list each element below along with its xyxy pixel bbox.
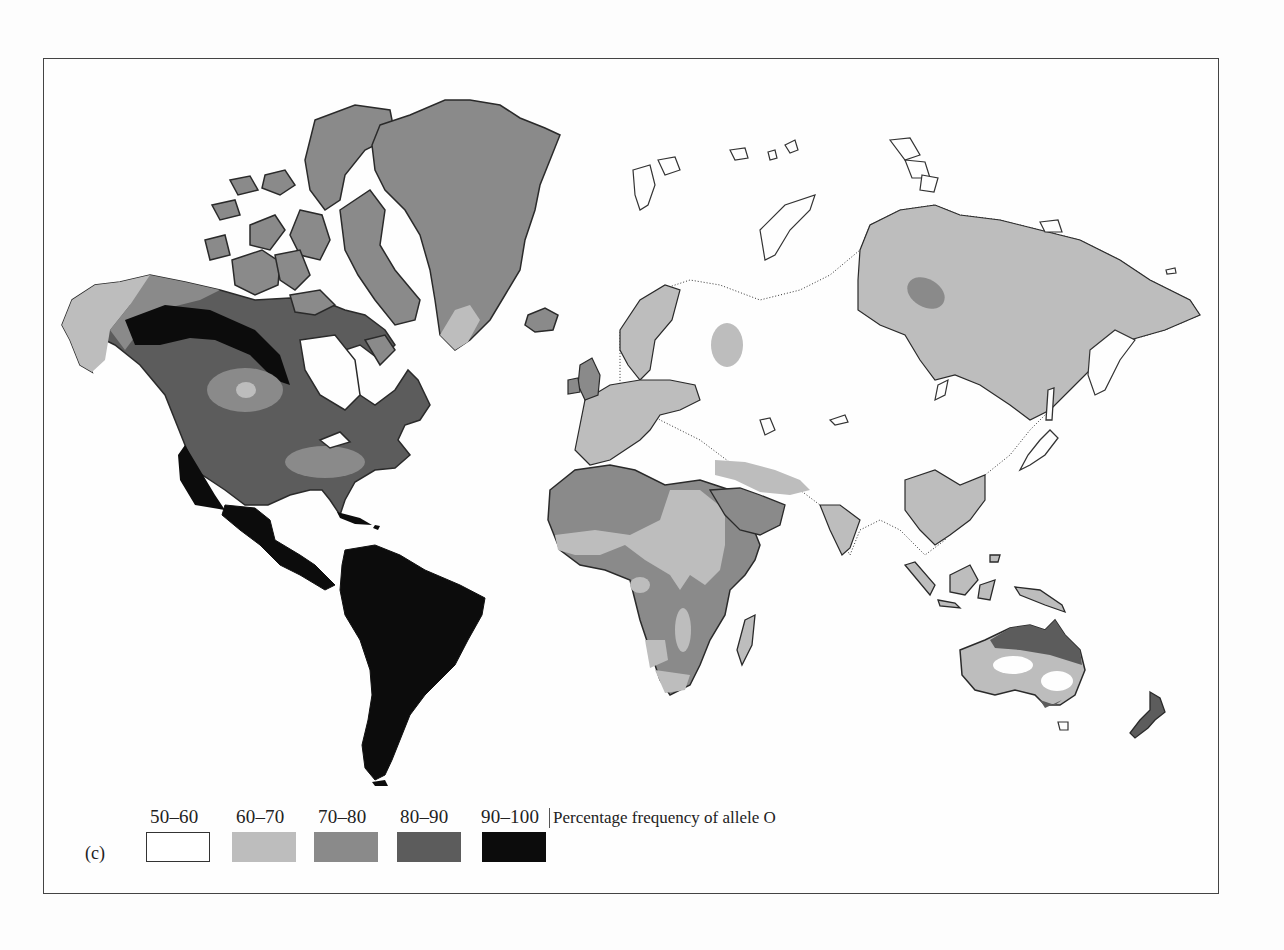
legend-label-70-80: 70–80 (318, 806, 367, 828)
legend-label-50-60: 50–60 (150, 806, 199, 828)
legend-swatch-50-60 (146, 832, 210, 862)
legend-swatch-80-90 (397, 832, 461, 862)
legend-title: Percentage frequency of allele O (549, 808, 776, 828)
panel-label: (c) (85, 843, 105, 864)
legend-swatch-60-70 (232, 832, 296, 862)
africa (548, 465, 785, 695)
region-iceland (525, 308, 558, 332)
legend-label-90-100: 90–100 (481, 806, 539, 828)
region-australia (960, 620, 1085, 730)
region-central-america (222, 505, 335, 590)
region-japan (1020, 430, 1058, 470)
region-madagascar (737, 615, 755, 665)
legend-swatch-90-100 (482, 832, 546, 862)
north-america (62, 275, 430, 515)
region-indonesia (905, 555, 1065, 612)
region-south-america (340, 545, 485, 780)
region-british-isles (578, 358, 600, 400)
region-new-zealand (1130, 692, 1165, 738)
legend-swatch-70-80 (314, 832, 378, 862)
legend-label-80-90: 80–90 (400, 806, 449, 828)
legend-label-60-70: 60–70 (236, 806, 285, 828)
